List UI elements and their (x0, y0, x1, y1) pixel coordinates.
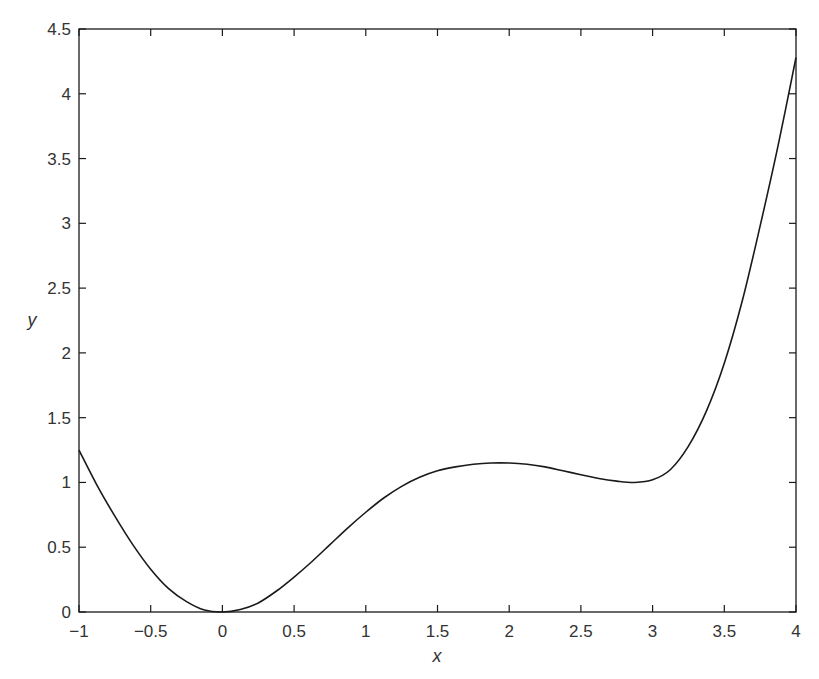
y-tick-label: 1 (62, 473, 71, 492)
x-tick-label: 0 (218, 622, 227, 641)
y-tick-label: 2 (62, 344, 71, 363)
x-tick-label: 3 (648, 622, 657, 641)
x-tick-label: 2 (504, 622, 513, 641)
data-line (79, 58, 796, 613)
x-tick-label: −0.5 (134, 622, 168, 641)
x-tick-label: 3.5 (712, 622, 736, 641)
axes-box (79, 29, 796, 612)
x-tick-label: 2.5 (569, 622, 593, 641)
line-chart: −1−0.500.511.522.533.54 00.511.522.533.5… (0, 0, 819, 679)
y-axis-ticks: 00.511.522.533.544.5 (47, 20, 796, 622)
y-tick-label: 0 (62, 603, 71, 622)
x-axis-label: x (432, 646, 443, 666)
y-tick-label: 0.5 (47, 538, 71, 557)
x-tick-label: 1.5 (426, 622, 450, 641)
y-tick-label: 3 (62, 214, 71, 233)
plot-frame (79, 29, 796, 612)
y-axis-label: y (26, 310, 38, 330)
y-tick-label: 4.5 (47, 20, 71, 39)
x-tick-label: 0.5 (282, 622, 306, 641)
y-tick-label: 1.5 (47, 409, 71, 428)
x-tick-label: 4 (791, 622, 800, 641)
y-tick-label: 3.5 (47, 150, 71, 169)
x-axis-ticks: −1−0.500.511.522.533.54 (69, 29, 800, 641)
y-tick-label: 2.5 (47, 279, 71, 298)
x-tick-label: 1 (361, 622, 370, 641)
x-tick-label: −1 (69, 622, 88, 641)
y-tick-label: 4 (62, 85, 71, 104)
